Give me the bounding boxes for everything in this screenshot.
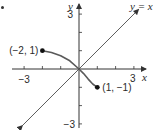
y-tick-label: −3: [64, 119, 76, 130]
point-label: (−2, 1): [9, 45, 38, 56]
y-tick-label: 3: [67, 9, 73, 20]
data-point: [40, 48, 45, 53]
line-label-y-equals-x: y = x: [129, 0, 153, 12]
x-axis-label: x: [141, 71, 147, 83]
x-tick-label: −3: [18, 74, 30, 85]
data-point: [95, 85, 100, 90]
point-label: (1, −1): [102, 82, 131, 93]
series: [22, 10, 138, 126]
labels: x y −3 3 3 −3 (−2, 1) (1, −1) y = x: [9, 0, 153, 130]
chart: x y −3 3 3 −3 (−2, 1) (1, −1) y = x: [0, 0, 153, 130]
line-y-equals-x: [22, 10, 138, 126]
